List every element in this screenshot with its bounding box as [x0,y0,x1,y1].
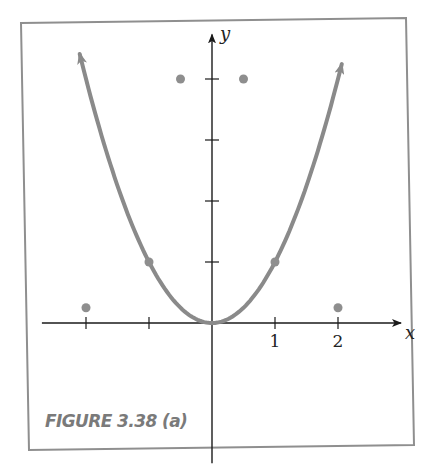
data-point [82,303,91,312]
curve-point [271,258,280,267]
x-axis-label: x [405,322,415,343]
curve-left-branch [80,54,213,323]
data-point [176,75,185,84]
curve-point [145,258,154,267]
data-point [334,303,343,312]
data-point [239,75,248,84]
plot-area: 12xy [42,23,415,463]
figure-frame [21,18,414,450]
x-tick-label: 2 [333,331,344,351]
figure-3-38a: 12xy [0,0,432,472]
x-tick-label: 1 [270,331,281,351]
y-axis-label: y [219,23,231,44]
curve-right-branch [213,64,342,323]
figure-caption: FIGURE 3.38 (a) [45,411,187,431]
